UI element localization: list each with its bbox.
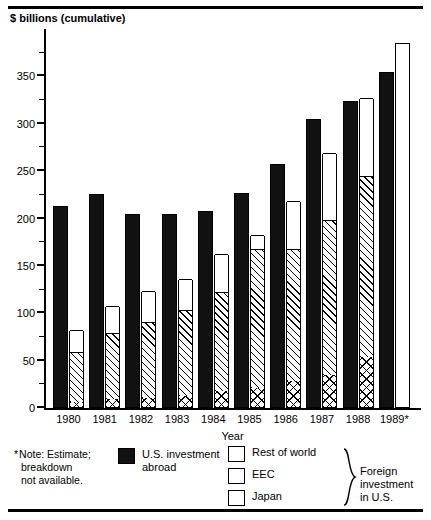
segment-eec	[323, 220, 336, 374]
segment-rest-of-world	[251, 235, 264, 249]
legend-foreign: Rest of world EEC Japan	[228, 446, 348, 512]
bar-us-investment-abroad	[234, 193, 249, 408]
bottom-rule	[8, 509, 423, 512]
segment-japan	[323, 375, 336, 407]
bar-foreign-investment-us	[214, 255, 229, 408]
segment-rest-of-world	[360, 98, 373, 176]
x-axis-title: Year	[44, 430, 421, 442]
y-tick-label: 350	[17, 70, 35, 82]
bar-foreign-investment-us	[178, 280, 193, 408]
legend-label-japan: Japan	[252, 490, 282, 503]
y-axis-title: $ billions (cumulative)	[10, 12, 126, 24]
y-tick-major	[37, 74, 45, 76]
swatch-diagonal-hatch-icon	[228, 468, 245, 484]
segment-rest-of-world	[323, 153, 336, 220]
legend-label-us-abroad: U.S. investmentabroad	[142, 448, 220, 474]
y-tick-minor	[39, 146, 45, 147]
foreign-investment-label: Foreign investment in U.S.	[360, 465, 431, 504]
segment-japan	[70, 402, 83, 407]
y-tick-major	[37, 359, 45, 361]
y-tick-major	[37, 406, 45, 408]
bar-foreign-investment-us	[69, 331, 84, 408]
y-tick-major	[37, 122, 45, 124]
bar-foreign-investment-us	[322, 154, 337, 408]
bar-us-investment-abroad	[125, 214, 140, 408]
bar-group	[162, 29, 193, 408]
foreign-label-line1: Foreign investment	[360, 465, 413, 490]
y-tick-major	[37, 311, 45, 313]
bar-group	[89, 29, 120, 408]
bar-us-investment-abroad	[306, 119, 321, 408]
swatch-white-icon	[228, 446, 245, 462]
y-tick-major	[37, 217, 45, 219]
legend-item-rest-of-world: Rest of world	[228, 446, 348, 462]
segment-rest-of-world	[142, 291, 155, 321]
bar-us-investment-abroad	[53, 206, 68, 408]
legend-item-us-abroad: U.S. investmentabroad	[118, 448, 228, 474]
note-asterisk: *	[14, 448, 18, 460]
bar-group	[198, 29, 229, 408]
segment-japan	[287, 381, 300, 407]
x-axis-line	[44, 408, 421, 410]
segment-japan	[106, 399, 119, 407]
legend-label-us-abroad-line1: U.S. investment	[142, 448, 220, 460]
segment-rest-of-world	[106, 306, 119, 333]
bar-foreign-investment-us	[286, 202, 301, 408]
segment-japan	[215, 391, 228, 407]
bar-group	[343, 29, 374, 408]
segment-eec	[287, 249, 300, 382]
segment-rest-of-world	[287, 201, 300, 248]
legend-us: U.S. investmentabroad	[118, 448, 228, 480]
segment-japan	[360, 357, 373, 407]
chart-footer: *Note: Estimate; breakdown not available…	[0, 446, 431, 506]
y-tick-major	[37, 264, 45, 266]
segment-eec	[251, 249, 264, 388]
y-tick-minor	[39, 194, 45, 195]
brace-icon	[343, 448, 357, 506]
bar-foreign-investment-us	[395, 43, 410, 408]
y-tick-major	[37, 169, 45, 171]
y-axis-line	[44, 29, 46, 410]
bar-foreign-investment-us	[359, 99, 374, 408]
y-tick-label: 50	[23, 355, 35, 367]
bar-us-investment-abroad	[198, 211, 213, 408]
bar-foreign-investment-us	[141, 292, 156, 408]
bar-group	[379, 29, 410, 408]
segment-japan	[142, 398, 155, 407]
bar-foreign-investment-us	[250, 236, 265, 408]
y-tick-minor	[39, 336, 45, 337]
legend-item-japan: Japan	[228, 490, 348, 506]
bar-group	[270, 29, 301, 408]
segment-eec	[360, 176, 373, 357]
y-tick-label: 200	[17, 213, 35, 225]
y-tick-label: 100	[17, 307, 35, 319]
segment-eec	[106, 333, 119, 399]
y-tick-minor	[39, 99, 45, 100]
bar-group	[53, 29, 84, 408]
y-tick-minor	[39, 383, 45, 384]
legend-label-eec: EEC	[252, 468, 275, 481]
segment-japan	[179, 396, 192, 407]
bar-group	[306, 29, 337, 408]
bar-group	[125, 29, 156, 408]
bar-us-investment-abroad	[343, 101, 358, 408]
y-tick-minor	[39, 241, 45, 242]
legend-label-rest-of-world: Rest of world	[252, 446, 316, 459]
y-tick-label: 300	[17, 118, 35, 130]
top-rule	[8, 6, 423, 9]
plot-area: 050100150200250300350 198019811982198319…	[44, 29, 421, 410]
segment-rest-of-world	[179, 279, 192, 310]
bar-group	[234, 29, 265, 408]
segment-eec	[215, 292, 228, 391]
bar-us-investment-abroad	[89, 194, 104, 408]
segment-rest-of-world	[70, 330, 83, 352]
bar-us-investment-abroad	[379, 72, 394, 408]
foreign-label-line2: in U.S.	[360, 491, 393, 503]
swatch-crosshatch-icon	[228, 490, 245, 506]
y-tick-label: 250	[17, 165, 35, 177]
chart-figure: $ billions (cumulative) 0501001502002503…	[0, 0, 431, 520]
segment-eec	[142, 322, 155, 398]
bar-us-investment-abroad	[162, 214, 177, 408]
legend-label-us-abroad-line2: abroad	[142, 461, 176, 473]
segment-rest-of-world	[215, 254, 228, 293]
